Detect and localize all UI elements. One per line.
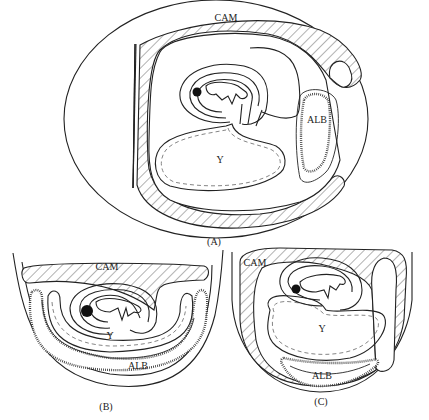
- embryo-head-a: [193, 88, 202, 97]
- label-alb-b: ALB: [128, 360, 148, 371]
- yolk-sac-b: [48, 291, 193, 352]
- label-yolk-c: Y: [318, 323, 325, 334]
- caption-c: (C): [314, 396, 327, 408]
- panel-c: CAM Y ALB (C): [232, 248, 412, 408]
- label-cam-c: CAM: [244, 257, 267, 268]
- panel-a: CAM ALB Y (A): [64, 0, 368, 248]
- embryo-head-c: [292, 285, 301, 294]
- label-cam-a: CAM: [215, 12, 238, 23]
- yolk-dashed-b: [52, 302, 186, 346]
- egg-membrane-diagram: CAM ALB Y (A) CAM Y ALB (B): [0, 0, 429, 420]
- embryo-head-b: [81, 305, 93, 317]
- panel-b: CAM Y ALB (B): [13, 250, 223, 413]
- label-alb-c: ALB: [312, 370, 332, 381]
- caption-a: (A): [207, 236, 221, 248]
- label-cam-b: CAM: [96, 261, 119, 272]
- label-yolk-a: Y: [216, 154, 223, 165]
- label-yolk-b: Y: [106, 330, 113, 341]
- caption-b: (B): [99, 401, 112, 413]
- label-alb-a: ALB: [307, 114, 327, 125]
